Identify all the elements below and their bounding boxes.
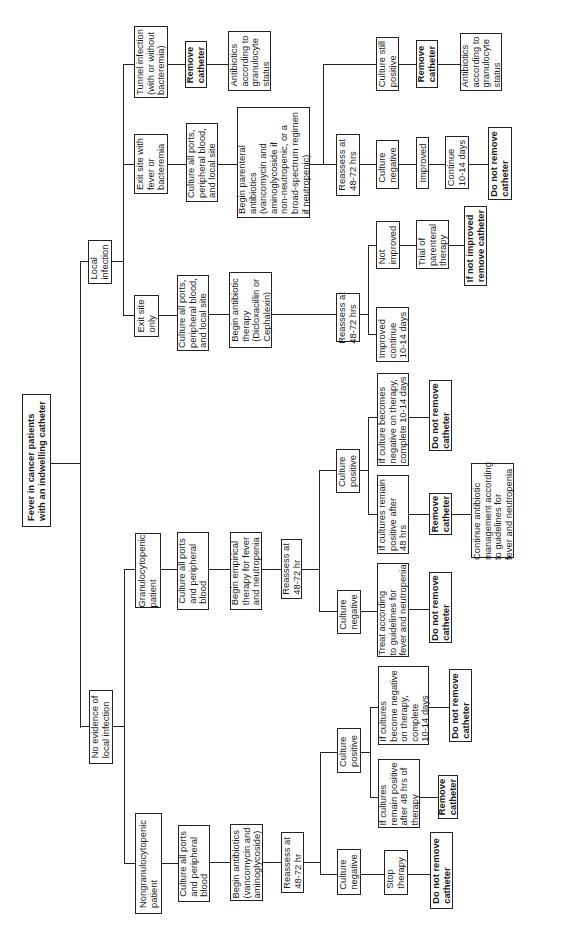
connector [400, 245, 416, 246]
connector [368, 417, 369, 515]
continue-box: Continue 10-14 days [445, 136, 469, 189]
remove-catheter-box: Remove catheter [438, 775, 458, 819]
node-label: If cultures remain positive after 48 hrs [377, 479, 409, 551]
do-not-remove-box: Do not remove catheter [429, 572, 452, 643]
reassess-box: Reassess at 48-72 hrs [336, 293, 360, 342]
node-label: Do not remove catheter [430, 383, 451, 449]
culture-positive-box: Culture positive [337, 728, 361, 773]
node-label: Tunnel infection (with or without bacter… [135, 29, 167, 95]
connector [51, 463, 81, 464]
node-label: If not improved remove catheter [465, 210, 486, 282]
node-label: Remove catheter [437, 779, 458, 815]
connector [420, 797, 438, 798]
antibiotics-granulocyte-box: Antibiotics according to granulocyte sta… [460, 33, 502, 91]
title: Fever in cancer patients with an indwell… [26, 401, 47, 521]
connector [304, 862, 320, 863]
catheter-fever-flowchart: Fever in cancer patients with an indwell… [0, 0, 565, 934]
node-label: Culture negative [338, 854, 359, 889]
connector [429, 164, 445, 165]
if-not-improved-remove-box: If not improved remove catheter [464, 206, 487, 286]
local-infection-box: Local infection [88, 240, 112, 284]
connector [159, 315, 177, 316]
node-label: If cultures become negative on therapy, … [377, 670, 430, 741]
connector [323, 64, 324, 165]
node-label: Not improved [377, 226, 398, 265]
connector [168, 64, 185, 65]
connector [124, 569, 135, 570]
connector [360, 314, 368, 315]
do-not-remove-box: Do not remove catheter [429, 380, 452, 451]
connector [302, 569, 319, 570]
antibiotics-granulocyte-box: Antibiotics according to granulocyte sta… [228, 31, 271, 91]
title-box: Fever in cancer patients with an indwell… [22, 394, 51, 527]
exit-site-only-box: Exit site only [134, 295, 159, 337]
connector [409, 417, 429, 418]
connector [320, 752, 337, 753]
node-label: Improved [417, 143, 428, 182]
node-label: Culture all ports and peripheral blood [178, 831, 210, 897]
treat-guidelines-box: Treat according to guidelines for fever … [377, 563, 409, 657]
node-label: Granulocytopenic patient [137, 534, 158, 607]
connector [80, 726, 89, 727]
node-label: Continue antibiotic management according… [471, 462, 513, 560]
culture-negative-box: Culture negative [376, 140, 399, 189]
remove-catheter-box: Remove catheter [416, 40, 438, 88]
trial-parenteral-box: Trial of parenteral therapy [416, 220, 449, 269]
connector [361, 874, 384, 875]
connector [360, 164, 376, 165]
node-label: Culture negative [377, 147, 398, 182]
connector [409, 514, 429, 515]
remove-catheter-box: Remove catheter [429, 493, 452, 535]
node-label: Do not remove catheter [430, 575, 451, 641]
empirical-therapy-box: Begin empirical therapy for fever and ne… [230, 532, 262, 610]
connector [323, 64, 376, 65]
connector [408, 874, 430, 875]
connector [123, 64, 124, 316]
connector [319, 470, 320, 612]
becomes-negative-box: If culture becomes negative on therapy, … [377, 373, 409, 466]
node-label: Culture all ports, peripheral blood, and… [186, 128, 218, 198]
connector [361, 611, 377, 612]
connector [368, 245, 376, 246]
node-label: Do not remove catheter [489, 131, 510, 197]
connector [409, 609, 429, 610]
node-label: Culture positive [338, 735, 359, 767]
node-label: Local infection [89, 245, 110, 280]
connector [320, 874, 337, 875]
node-label: Exit site with fever or bacteremia [135, 138, 167, 190]
node-label: If cultures remain positive after 48 hrs… [378, 762, 420, 825]
connector [209, 569, 230, 570]
tunnel-infection-box: Tunnel infection (with or without bacter… [134, 26, 168, 98]
node-label: Do not remove catheter [431, 838, 452, 904]
connector [361, 752, 370, 753]
node-label: Improved continue 10-14 days [377, 311, 409, 357]
node-label: Continue 10-14 days [446, 139, 467, 185]
connector [368, 334, 376, 335]
culture-negative-box: Culture negative [337, 849, 361, 895]
node-label: Culture still positive [377, 41, 398, 87]
node-label: Reassess at 48-72 hr [281, 543, 302, 595]
connector [123, 64, 134, 65]
connector [319, 611, 337, 612]
connector [168, 164, 186, 165]
culture-negative-box: Culture negative [337, 590, 361, 634]
node-label: Antibiotics according to granulocyte sta… [460, 36, 502, 87]
node-label: Do not remove catheter [450, 673, 471, 739]
connector [112, 261, 123, 262]
reassess-box: Reassess at 48-72 hr [281, 539, 302, 599]
node-label: Culture positive [337, 455, 358, 487]
connector [123, 164, 134, 165]
connector [209, 314, 229, 315]
connector [161, 569, 177, 570]
begin-antibiotics-box: Begin antibiotics (vancomycin and aminog… [230, 824, 263, 901]
remains-positive-box: If cultures remain positive after 48 hrs [377, 475, 409, 554]
connector [218, 164, 237, 165]
connector [207, 64, 228, 65]
connector [452, 514, 471, 515]
remains-positive-box: If cultures remain positive after 48 hrs… [378, 759, 420, 828]
node-label: Culture all ports and peripheral blood [177, 538, 209, 604]
node-label: Treat according to guidelines for fever … [377, 564, 409, 655]
do-not-remove-box: Do not remove catheter [488, 127, 512, 200]
connector [210, 862, 230, 863]
connector [263, 862, 281, 863]
